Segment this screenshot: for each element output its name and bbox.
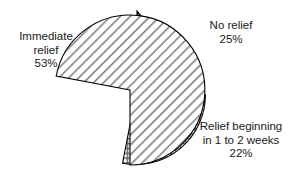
slice-label-no-relief: No relief 25% [191,19,271,46]
slice-label-relief-1-to-2-weeks: Relief beginning in 1 to 2 weeks 22% [193,120,289,161]
slice-label-immediate-relief-line1: Immediate [0,30,92,44]
slice-label-no-relief-value: 25% [191,33,271,47]
slice-label-immediate-relief-line2: relief [0,44,92,58]
pie-chart-figure: Immediate relief 53% No relief 25% Relie… [0,0,292,172]
slice-label-relief-1-to-2-weeks-line2: in 1 to 2 weeks [193,134,289,148]
slice-label-relief-1-to-2-weeks-value: 22% [193,147,289,161]
slice-label-immediate-relief: Immediate relief 53% [0,30,92,71]
slice-label-immediate-relief-value: 53% [0,57,92,71]
slice-label-relief-1-to-2-weeks-line1: Relief beginning [193,120,289,134]
slice-label-no-relief-line1: No relief [191,19,271,33]
